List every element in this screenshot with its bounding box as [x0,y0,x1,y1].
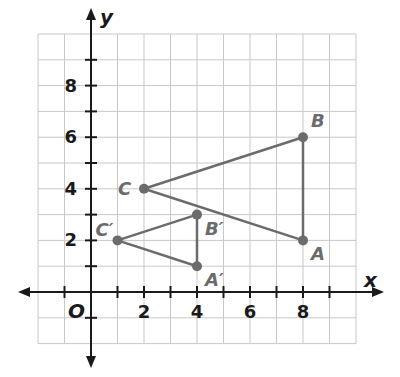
vertex-label: A′ [203,269,224,290]
y-axis-down-arrow-icon [86,356,96,368]
y-axis-up-arrow-icon [86,8,96,20]
x-axis-left-arrow-icon [18,287,30,297]
vertex-point [298,235,308,245]
y-tick-label: 4 [64,178,77,199]
vertex-label: B′ [205,218,224,239]
y-tick-label: 6 [64,126,77,147]
vertex-point [113,235,123,245]
vertex-point [192,261,202,271]
vertex-label: C′ [96,219,114,240]
vertex-point [139,184,149,194]
x-tick-label: 2 [138,301,151,322]
origin-label: O [68,299,85,323]
vertex-label: C [118,178,132,199]
x-tick-label: 6 [244,301,257,322]
x-tick-label: 4 [191,301,204,322]
y-tick-label: 2 [64,229,77,250]
figures [113,132,309,271]
y-axis-label: y [100,5,114,29]
vertex-label: B [311,110,325,131]
coordinate-plane: y x O 24682468ABCA′B′C′ [0,0,400,377]
vertex-label: A [309,243,325,264]
vertex-point [192,210,202,220]
y-tick-label: 8 [64,75,77,96]
x-tick-label: 8 [297,301,310,322]
x-axis-label: x [363,268,378,292]
vertex-point [298,132,308,142]
